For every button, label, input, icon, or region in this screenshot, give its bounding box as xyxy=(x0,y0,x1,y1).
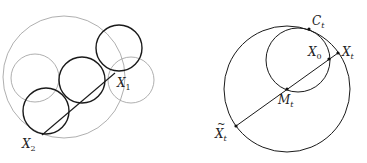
black-circle-bottom xyxy=(23,88,69,134)
diagram-canvas: X1 X2 Ct Xt X0 Mt Xt ~ xyxy=(0,0,367,163)
point-xt xyxy=(336,51,339,54)
label-x0: X0 xyxy=(307,45,322,61)
segment-x1-x2 xyxy=(42,73,115,135)
big-gray-circle xyxy=(3,16,125,138)
tilde-accent: ~ xyxy=(217,118,225,129)
left-figure: X1 X2 xyxy=(3,16,154,153)
label-xt: Xt xyxy=(341,45,355,61)
point-xt-tilde xyxy=(234,124,237,127)
point-ct xyxy=(307,27,310,30)
black-circle-top xyxy=(96,25,142,71)
label-x2: X2 xyxy=(21,137,36,153)
label-x1: X1 xyxy=(116,76,131,92)
label-xt-tilde: Xt xyxy=(214,127,228,143)
point-mt xyxy=(285,87,288,90)
label-ct: Ct xyxy=(312,14,325,30)
left-gray-circle xyxy=(11,54,59,102)
right-figure: Ct Xt X0 Mt Xt ~ xyxy=(214,14,355,152)
label-mt: Mt xyxy=(277,93,294,109)
right-gray-circle xyxy=(108,57,154,103)
black-circle-middle xyxy=(59,57,105,103)
point-x0 xyxy=(327,57,330,60)
